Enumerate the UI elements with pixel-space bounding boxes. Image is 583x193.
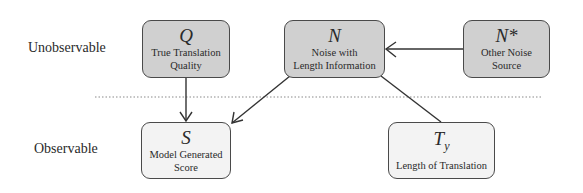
node-symbol: Ty	[434, 129, 450, 156]
symbol-subscript: y	[444, 138, 449, 152]
node-desc-line1: True Translation	[151, 46, 220, 59]
node-desc-line2: Length Information	[293, 59, 376, 72]
label-unobservable: Unobservable	[28, 40, 106, 56]
edge-n-to-ty	[381, 76, 441, 122]
node-symbol: N*	[495, 26, 517, 46]
node-desc-line1: Other Noise	[481, 46, 532, 59]
node-nstar-other-noise: N* Other Noise Source	[463, 20, 550, 78]
node-s-model-score: S Model Generated Score	[141, 122, 231, 179]
node-desc-line1: Length of Translation	[396, 159, 487, 172]
node-symbol: Q	[179, 26, 193, 46]
edge-nstar-to-n	[386, 42, 463, 57]
node-desc-line2: Source	[492, 59, 521, 72]
label-observable: Observable	[34, 141, 98, 157]
node-symbol: N	[328, 26, 341, 46]
node-q-true-quality: Q True Translation Quality	[142, 20, 230, 78]
node-desc-line1: Model Generated	[149, 148, 222, 161]
node-n-noise-length: N Noise with Length Information	[284, 20, 385, 78]
edge-n-to-s	[232, 76, 290, 123]
node-symbol: S	[181, 128, 191, 148]
node-desc-line2: Quality	[170, 59, 202, 72]
node-desc-line2: Score	[174, 161, 198, 174]
edge-q-to-s	[180, 78, 192, 121]
node-ty-translation-length: Ty Length of Translation	[388, 122, 495, 179]
symbol-base: T	[434, 128, 445, 149]
node-desc-line1: Noise with	[312, 46, 358, 59]
